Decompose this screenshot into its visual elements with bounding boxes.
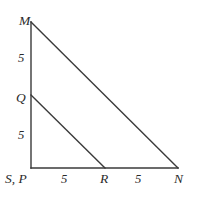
vertex-label-m: M <box>19 14 30 28</box>
geometry-figure: M Q S, P R N 5 5 5 5 <box>0 0 198 198</box>
vertex-label-r: R <box>100 172 108 186</box>
measure-label-sr: 5 <box>61 173 67 186</box>
segment-hypotenuse-MN <box>31 22 178 168</box>
figure-canvas <box>0 0 198 198</box>
vertex-label-s-p: S, P <box>5 172 27 186</box>
measure-label-mq: 5 <box>18 52 24 65</box>
vertex-label-n: N <box>174 172 183 186</box>
measure-label-qs: 5 <box>18 129 24 142</box>
measure-label-rn: 5 <box>135 173 141 186</box>
segment-parallel-QR <box>31 95 105 168</box>
vertex-label-q: Q <box>16 91 26 105</box>
